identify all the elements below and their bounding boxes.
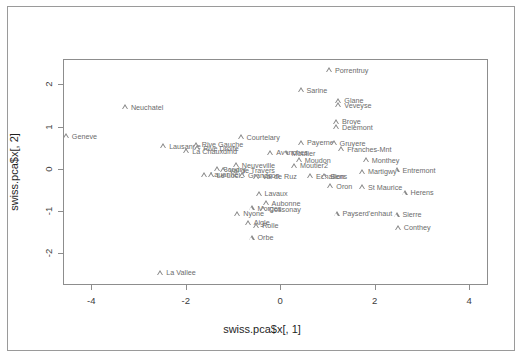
triangle-marker-icon: [234, 211, 240, 216]
triangle-marker-icon: [394, 212, 400, 217]
point-label: Martigwy: [368, 169, 397, 176]
point-label: Payerne: [307, 140, 334, 147]
y-axis-tick-label: -2: [43, 246, 54, 260]
point-label: La Vallee: [166, 270, 195, 277]
point-label: Neuchatel: [131, 104, 163, 111]
point-label: Monthey: [372, 157, 400, 164]
point-label: Sarine: [307, 87, 328, 94]
plot-screenshot: PorrentruySarineGlaneVeveyseNeuchatelBro…: [0, 0, 524, 361]
triangle-marker-icon: [249, 235, 255, 240]
triangle-marker-icon: [335, 102, 341, 107]
triangle-marker-icon: [256, 191, 262, 196]
point-label: Orbe: [257, 235, 273, 242]
triangle-marker-icon: [334, 211, 340, 216]
triangle-marker-icon: [245, 220, 251, 225]
x-axis-tick: [280, 285, 281, 290]
point-label: Oron: [336, 183, 352, 190]
triangle-marker-icon: [291, 163, 297, 168]
triangle-marker-icon: [122, 104, 128, 109]
point-label: Payserd'enhaut: [342, 211, 392, 218]
point-label: Le Locle: [217, 172, 244, 179]
triangle-marker-icon: [201, 172, 207, 177]
point-label: Franches-Mnt: [347, 146, 391, 153]
y-axis-tick: [58, 169, 63, 170]
x-axis-tick-label: 2: [372, 295, 377, 306]
x-axis-tick-label: -4: [87, 295, 95, 306]
triangle-marker-icon: [333, 119, 339, 124]
x-axis-tick: [186, 285, 187, 290]
point-label: Val de Ruz: [262, 173, 297, 180]
point-label: Delemont: [342, 124, 373, 131]
triangle-marker-icon: [298, 87, 304, 92]
triangle-marker-icon: [327, 183, 333, 188]
triangle-marker-icon: [333, 124, 339, 129]
point-label: Moutier2: [300, 163, 328, 170]
point-label: La Chauxdfnd: [192, 148, 237, 155]
y-axis-tick-label: 2: [43, 77, 54, 91]
x-axis-tick: [375, 285, 376, 290]
point-label: St Maurice: [368, 184, 402, 191]
triangle-marker-icon: [326, 67, 332, 72]
y-axis-tick: [58, 84, 63, 85]
x-axis-tick-label: 0: [278, 295, 283, 306]
point-label: Cossonay: [269, 206, 301, 213]
y-axis-label: swiss.pca$x[, 2]: [8, 133, 20, 211]
point-label: Sion: [330, 173, 344, 180]
triangle-marker-icon: [363, 157, 369, 162]
x-axis-tick: [469, 285, 470, 290]
triangle-marker-icon: [63, 133, 69, 138]
x-axis-label: swiss.pca$x[, 1]: [0, 323, 524, 335]
triangle-marker-icon: [238, 134, 244, 139]
triangle-marker-icon: [160, 143, 166, 148]
triangle-marker-icon: [267, 150, 273, 155]
triangle-marker-icon: [298, 140, 304, 145]
x-axis-tick: [91, 285, 92, 290]
point-label: Lavaux: [265, 190, 288, 197]
y-axis-tick-label: 1: [43, 120, 54, 134]
point-label: Porrentruy: [335, 67, 369, 74]
y-axis-tick-label: 0: [43, 162, 54, 176]
point-label: Nyone: [243, 211, 264, 218]
point-label: Entremont: [402, 167, 435, 174]
triangle-marker-icon: [157, 270, 163, 275]
point-label: Veveyse: [344, 102, 371, 109]
point-label: Courtelary: [247, 134, 280, 141]
y-axis-tick: [58, 211, 63, 212]
triangle-marker-icon: [307, 173, 313, 178]
y-axis-tick-label: -1: [43, 204, 54, 218]
triangle-marker-icon: [335, 98, 341, 103]
triangle-marker-icon: [359, 169, 365, 174]
x-axis-tick-label: 4: [466, 295, 471, 306]
point-label: Herens: [410, 189, 433, 196]
point-label: Geneve: [72, 133, 97, 140]
triangle-marker-icon: [359, 184, 365, 189]
plot-area: PorrentruySarineGlaneVeveyseNeuchatelBro…: [63, 59, 488, 285]
y-axis-tick: [58, 127, 63, 128]
point-label: Conthey: [404, 225, 431, 232]
x-axis-tick-label: -2: [182, 295, 190, 306]
triangle-marker-icon: [402, 190, 408, 195]
point-label: Rolle: [262, 222, 278, 229]
triangle-marker-icon: [395, 225, 401, 230]
point-label: Sierre: [402, 212, 421, 219]
y-axis-tick: [58, 253, 63, 254]
